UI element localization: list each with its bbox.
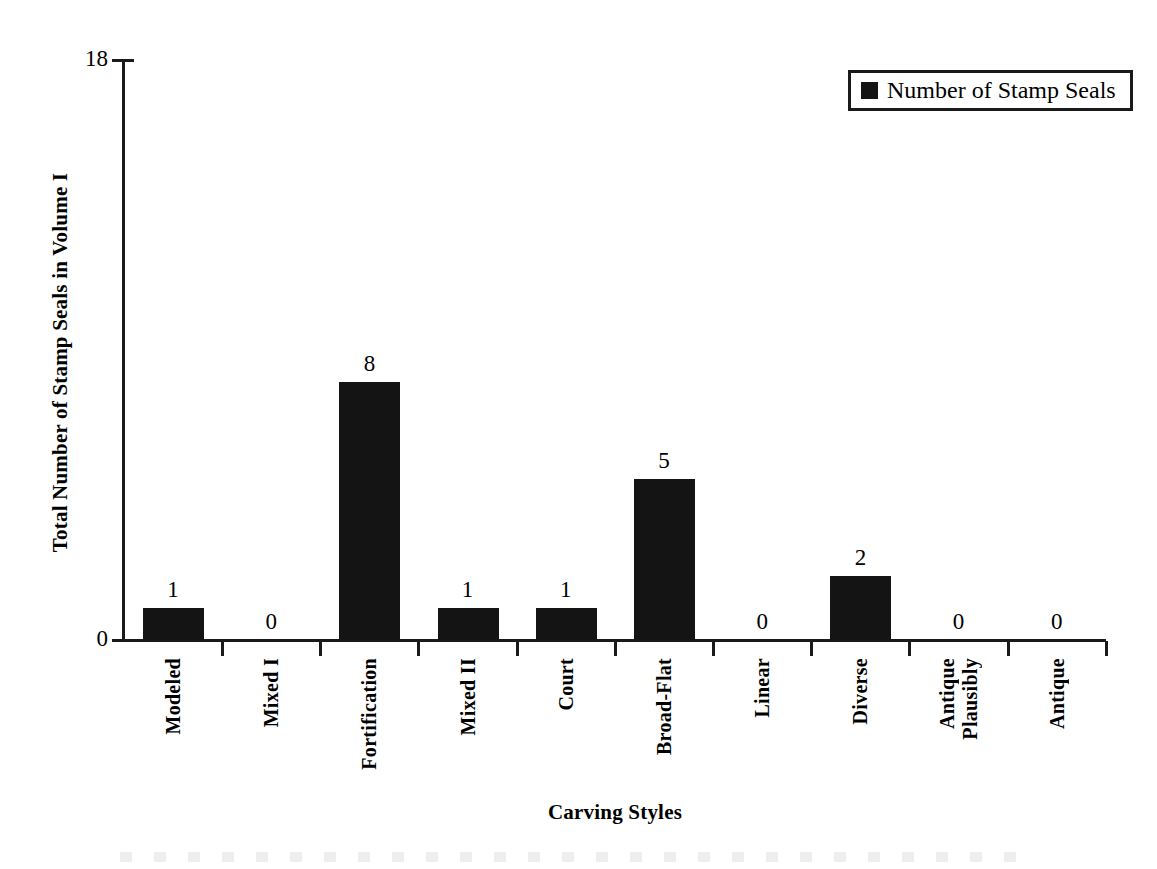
x-axis-tick xyxy=(417,641,420,656)
x-axis-category-label: Fortification xyxy=(320,658,418,798)
x-axis-title: Carving Styles xyxy=(124,800,1106,825)
scan-artifact xyxy=(120,852,1030,862)
x-axis-category-label: Broad-Flat xyxy=(615,658,713,798)
x-axis-category-label-word: Antique xyxy=(936,658,959,729)
bar-value-label: 0 xyxy=(713,610,811,633)
x-axis-category-labels: ModeledMixed IFortificationMixed IICourt… xyxy=(124,658,1106,798)
bar[interactable] xyxy=(536,608,597,640)
bar-slot: 1 xyxy=(517,60,615,640)
x-axis-category-label: Diverse xyxy=(811,658,909,798)
bar-value-label: 0 xyxy=(910,610,1008,633)
bar-slot: 0 xyxy=(910,60,1008,640)
x-axis-category-label: PlausiblyAntique xyxy=(910,658,1008,798)
chart-legend: Number of Stamp Seals xyxy=(848,70,1133,111)
x-axis-tick xyxy=(908,641,911,656)
x-axis-category-label-word: Modeled xyxy=(162,658,185,735)
bar-value-label: 1 xyxy=(124,578,222,601)
bar-value-label: 0 xyxy=(1008,610,1106,633)
bar-chart-figure: Total Number of Stamp Seals in Volume I … xyxy=(0,0,1157,869)
x-axis-category-label: Mixed II xyxy=(419,658,517,798)
x-axis-category-label-word: Antique xyxy=(1045,658,1068,729)
x-axis-tick xyxy=(614,641,617,656)
bar[interactable] xyxy=(143,608,204,640)
x-axis-category-label-word: Broad-Flat xyxy=(653,658,676,755)
legend-label: Number of Stamp Seals xyxy=(887,78,1116,102)
bar-value-label: 1 xyxy=(517,578,615,601)
x-axis-category-label-word: Linear xyxy=(751,658,774,718)
x-axis-category-label: Antique xyxy=(1008,658,1106,798)
x-axis-category-label-word: Court xyxy=(554,658,577,711)
x-axis-category-label-word: Fortification xyxy=(358,658,381,770)
x-axis-tick xyxy=(319,641,322,656)
bar-slot: 0 xyxy=(713,60,811,640)
bar-slot: 8 xyxy=(320,60,418,640)
legend-swatch-icon xyxy=(861,82,878,99)
bar-slot: 0 xyxy=(1008,60,1106,640)
x-axis-tick xyxy=(1007,641,1010,656)
x-axis-tick xyxy=(221,641,224,656)
x-axis-category-label: Linear xyxy=(713,658,811,798)
bar[interactable] xyxy=(438,608,499,640)
y-axis-title: Total Number of Stamp Seals in Volume I xyxy=(48,113,73,613)
bar[interactable] xyxy=(830,576,891,640)
bar-slot: 5 xyxy=(615,60,713,640)
x-axis-category-label-word: Mixed I xyxy=(260,658,283,727)
bar-value-label: 1 xyxy=(419,578,517,601)
x-axis-category-label-word: Diverse xyxy=(849,658,872,725)
x-axis-category-label: Modeled xyxy=(124,658,222,798)
bar-value-label: 5 xyxy=(615,449,713,472)
x-axis-tick xyxy=(516,641,519,656)
x-axis-tick xyxy=(1105,641,1108,656)
x-axis-category-label-word: Mixed II xyxy=(456,658,479,735)
y-axis-tick-label-max: 18 xyxy=(62,47,108,70)
x-axis-tick xyxy=(810,641,813,656)
bar-slot: 1 xyxy=(124,60,222,640)
bar-slot: 2 xyxy=(811,60,909,640)
x-axis-tick xyxy=(712,641,715,656)
bar[interactable] xyxy=(339,382,400,640)
x-axis-category-label-word: Plausibly xyxy=(959,658,982,740)
bar-value-label: 2 xyxy=(811,546,909,569)
bar[interactable] xyxy=(634,479,695,640)
bar-slot: 1 xyxy=(419,60,517,640)
plot-area: 1081150200 xyxy=(124,60,1106,640)
x-axis-category-label: Mixed I xyxy=(222,658,320,798)
bar-value-label: 0 xyxy=(222,610,320,633)
bar-value-label: 8 xyxy=(320,352,418,375)
y-axis-tick-label-min: 0 xyxy=(62,627,108,650)
x-axis-category-label: Court xyxy=(517,658,615,798)
bar-slot: 0 xyxy=(222,60,320,640)
